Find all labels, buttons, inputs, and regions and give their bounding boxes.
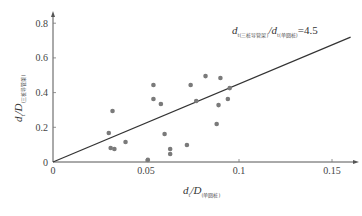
data-point — [185, 143, 190, 148]
ticks — [53, 23, 332, 162]
tick-labels: 00.050.10.1500.20.40.60.8 — [36, 18, 341, 176]
data-point — [123, 140, 128, 145]
fit-line — [53, 37, 351, 162]
data-point — [168, 152, 173, 157]
data-point — [110, 109, 115, 114]
data-point — [159, 102, 164, 107]
y-axis-label: dt/D(三桩导管架) — [12, 75, 27, 122]
x-tick-label: 0.05 — [137, 165, 155, 176]
data-point — [216, 103, 221, 108]
data-point — [151, 83, 156, 88]
data-point — [162, 132, 167, 137]
scatter-chart: 00.050.10.1500.20.40.60.8 dt(三桩导管架)/dt(单… — [0, 0, 362, 216]
data-point — [188, 83, 193, 88]
y-tick-label: 0.2 — [36, 122, 49, 133]
data-point — [214, 122, 219, 127]
data-point — [107, 131, 112, 136]
data-point — [151, 97, 156, 102]
x-tick-label: 0.1 — [233, 165, 246, 176]
x-tick-label: 0.15 — [323, 165, 341, 176]
data-point — [146, 158, 151, 163]
y-tick-label: 0.4 — [36, 87, 49, 98]
x-axis-label: dt/D(单圆桩) — [183, 184, 220, 199]
y-axis-arrow — [51, 11, 55, 17]
data-point — [218, 76, 223, 81]
data-point — [112, 147, 117, 152]
data-point — [227, 86, 232, 91]
data-point — [226, 97, 231, 102]
data-point — [168, 147, 173, 152]
x-tick-label: 0 — [51, 165, 56, 176]
data-point — [203, 74, 208, 79]
y-tick-label: 0.8 — [36, 18, 49, 29]
data-point — [194, 99, 199, 104]
data-points — [107, 74, 233, 162]
ratio-annotation: dt(三桩导管架)/dt(单圆桩)=4.5 — [232, 24, 318, 39]
x-axis-arrow — [353, 160, 359, 164]
y-tick-label: 0.6 — [36, 52, 49, 63]
y-tick-label: 0 — [43, 157, 48, 168]
